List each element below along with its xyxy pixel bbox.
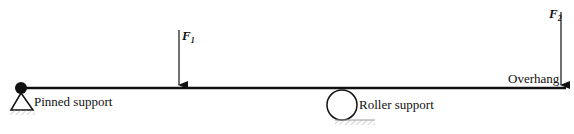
pinned-support-ground-hatch (9, 110, 35, 115)
beam-diagram: Pinned support Roller support F1 F2 Over… (0, 0, 574, 134)
roller-support-label: Roller support (359, 97, 434, 112)
pinned-support-label: Pinned support (34, 94, 113, 109)
pinned-support-triangle-icon (11, 93, 33, 110)
overhang-label: Overhang (508, 71, 560, 86)
force-f1: F1 (179, 28, 195, 85)
pin-icon (15, 82, 27, 94)
roller-icon (327, 90, 357, 120)
force-f1-label: F1 (181, 28, 195, 45)
roller-ground-hatch (335, 120, 375, 125)
force-f2-label: F2 (548, 6, 562, 23)
roller-support: Roller support (327, 90, 434, 125)
